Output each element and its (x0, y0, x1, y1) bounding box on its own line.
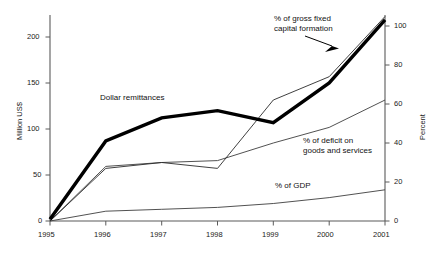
annotation-gdp: % of GDP (275, 181, 311, 191)
annotation-gfcf-line1: % of gross fixed (274, 14, 333, 24)
x-axis-tick-2001: 2001 (373, 231, 390, 239)
y-axis-left-tick-0: 0 (38, 217, 42, 225)
x-axis-tick-1998: 1998 (206, 231, 223, 239)
chart-container: 200 150 100 50 0 100 80 60 40 20 0 1995 … (0, 0, 431, 253)
series-line-deficit-goods-services (50, 100, 385, 221)
y-axis-right-tick-80: 80 (394, 61, 402, 69)
x-axis-tick-1997: 1997 (150, 231, 167, 239)
y-axis-right-ticks (385, 26, 390, 221)
series-line-gdp (50, 190, 385, 221)
gross-fixed-capital-formation-arrow (305, 36, 339, 52)
x-axis-tick-2000: 2000 (317, 231, 334, 239)
x-axis-tick-1995: 1995 (38, 231, 55, 239)
annotation-gfcf-line2: capital formation (274, 24, 333, 34)
y-axis-left-tick-150: 150 (27, 79, 40, 87)
y-axis-right-tick-40: 40 (394, 139, 402, 147)
annotation-deficit-line2: goods and services (303, 146, 372, 156)
annotation-dollar-remittances: Dollar remittances (100, 93, 164, 103)
y-axis-right-tick-100: 100 (394, 22, 407, 30)
x-axis-tick-1999: 1999 (262, 231, 279, 239)
chart-plot-area (0, 0, 431, 253)
y-axis-left-ticks (46, 37, 51, 221)
y-axis-left-tick-50: 50 (33, 171, 41, 179)
y-axis-left-tick-100: 100 (27, 125, 40, 133)
annotation-deficit-line1: % of deficit on (303, 136, 372, 146)
series-line-dollar-remittances (50, 20, 385, 219)
y-axis-right-title: Percent (419, 114, 427, 140)
annotation-deficit-goods-services: % of deficit on goods and services (303, 136, 372, 156)
annotation-gross-fixed-capital-formation: % of gross fixed capital formation (274, 14, 333, 34)
x-axis-ticks (50, 221, 385, 226)
y-axis-left-tick-200: 200 (27, 33, 40, 41)
x-axis-tick-1996: 1996 (94, 231, 111, 239)
y-axis-right-tick-0: 0 (394, 217, 398, 225)
y-axis-right-tick-60: 60 (394, 100, 402, 108)
y-axis-left-title: Million US$ (16, 102, 24, 140)
y-axis-right-tick-20: 20 (394, 178, 402, 186)
